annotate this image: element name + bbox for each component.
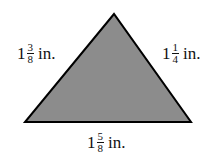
bottom-fraction: 5 8 (97, 131, 105, 154)
right-fraction: 1 4 (172, 42, 180, 65)
left-whole: 1 (17, 44, 26, 64)
left-unit: in. (38, 44, 55, 64)
left-fraction: 3 8 (27, 42, 35, 65)
bottom-denominator: 8 (98, 143, 104, 154)
bottom-whole: 1 (87, 133, 96, 153)
right-denominator: 4 (173, 54, 179, 65)
bottom-side-label: 1 5 8 in. (87, 131, 125, 154)
right-side-label: 1 1 4 in. (162, 42, 200, 65)
left-denominator: 8 (28, 54, 34, 65)
right-unit: in. (183, 44, 200, 64)
left-side-label: 1 3 8 in. (17, 42, 55, 65)
triangle-diagram: 1 3 8 in. 1 1 4 in. 1 5 8 in. (0, 0, 217, 163)
bottom-unit: in. (108, 133, 125, 153)
right-whole: 1 (162, 44, 171, 64)
